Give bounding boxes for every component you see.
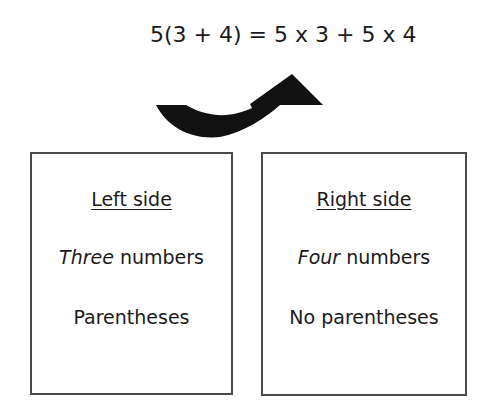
right-side-heading: Right side bbox=[263, 188, 465, 210]
equation: 5(3 + 4) = 5 x 3 + 5 x 4 bbox=[150, 22, 440, 47]
right-side-count-emphasis: Four bbox=[298, 246, 340, 268]
right-side-count-rest: numbers bbox=[340, 246, 430, 268]
left-side-heading: Left side bbox=[32, 188, 231, 210]
left-side-box: Left side Three numbers Parentheses bbox=[30, 152, 233, 395]
curved-arrow-icon bbox=[150, 66, 330, 146]
right-side-box: Right side Four numbers No parentheses bbox=[261, 152, 467, 396]
right-side-parentheses: No parentheses bbox=[263, 306, 465, 328]
left-side-number-count: Three numbers bbox=[32, 246, 231, 268]
left-side-parentheses: Parentheses bbox=[32, 306, 231, 328]
left-side-count-emphasis: Three bbox=[59, 246, 114, 268]
right-side-number-count: Four numbers bbox=[263, 246, 465, 268]
left-side-count-rest: numbers bbox=[114, 246, 204, 268]
